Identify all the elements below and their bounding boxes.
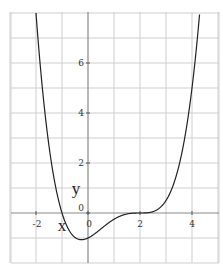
x-tick-label-0: 0	[86, 219, 92, 229]
function-plot: -2 0 2 4 0 2 4 6 y x	[0, 0, 223, 272]
y-tick-label-0: 0	[78, 203, 84, 213]
x-axis-name: x	[58, 216, 67, 235]
y-tick-label-4: 4	[78, 108, 84, 118]
y-tick-label-2: 2	[78, 158, 84, 168]
function-curve	[36, 13, 200, 240]
x-tick-label-2: 2	[137, 219, 143, 229]
y-axis-name: y	[72, 179, 81, 198]
x-tick-label-neg2: -2	[33, 219, 42, 229]
y-tick-label-6: 6	[78, 58, 84, 68]
x-tick-label-4: 4	[189, 219, 195, 229]
